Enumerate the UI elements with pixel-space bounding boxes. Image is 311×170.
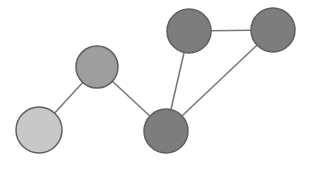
graph-node-e[interactable] xyxy=(251,8,295,52)
graph-canvas xyxy=(0,0,311,170)
graph-node-b[interactable] xyxy=(76,46,118,88)
graph-node-d[interactable] xyxy=(167,9,211,53)
node-link-graph xyxy=(0,0,311,170)
node-layer xyxy=(16,8,295,153)
graph-node-c[interactable] xyxy=(144,109,188,153)
graph-node-a[interactable] xyxy=(16,107,62,153)
